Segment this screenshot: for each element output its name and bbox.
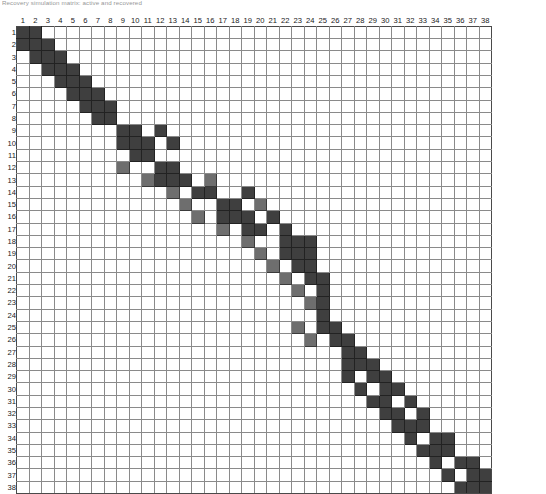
matrix-cell[interactable] [454, 235, 467, 247]
matrix-cell[interactable] [329, 285, 342, 297]
matrix-cell[interactable] [417, 137, 430, 149]
matrix-cell[interactable] [379, 334, 392, 346]
matrix-cell[interactable] [179, 481, 192, 493]
matrix-cell[interactable] [129, 248, 142, 260]
matrix-cell[interactable] [367, 162, 380, 174]
matrix-cell[interactable] [192, 334, 205, 346]
matrix-cell[interactable] [404, 395, 417, 407]
matrix-cell[interactable] [42, 248, 55, 260]
matrix-cell[interactable] [354, 309, 367, 321]
matrix-cell[interactable] [429, 186, 442, 198]
matrix-cell[interactable] [229, 297, 242, 309]
matrix-cell[interactable] [329, 457, 342, 469]
matrix-cell[interactable] [42, 26, 55, 38]
matrix-cell[interactable] [317, 186, 330, 198]
matrix-cell[interactable] [442, 297, 455, 309]
matrix-cell[interactable] [254, 346, 267, 358]
matrix-cell[interactable] [204, 63, 217, 75]
matrix-cell[interactable] [204, 383, 217, 395]
matrix-cell[interactable] [154, 211, 167, 223]
matrix-cell[interactable] [117, 100, 130, 112]
matrix-cell[interactable] [17, 334, 30, 346]
matrix-cell[interactable] [379, 395, 392, 407]
matrix-cell[interactable] [292, 285, 305, 297]
matrix-cell[interactable] [129, 198, 142, 210]
matrix-cell[interactable] [142, 63, 155, 75]
matrix-cell[interactable] [229, 211, 242, 223]
matrix-cell[interactable] [117, 223, 130, 235]
matrix-cell[interactable] [267, 346, 280, 358]
matrix-cell[interactable] [242, 63, 255, 75]
matrix-cell[interactable] [167, 186, 180, 198]
matrix-cell[interactable] [167, 285, 180, 297]
matrix-cell[interactable] [17, 211, 30, 223]
matrix-cell[interactable] [29, 272, 42, 284]
matrix-cell[interactable] [329, 346, 342, 358]
matrix-cell[interactable] [242, 26, 255, 38]
matrix-cell[interactable] [354, 272, 367, 284]
matrix-cell[interactable] [329, 88, 342, 100]
matrix-cell[interactable] [479, 137, 492, 149]
matrix-cell[interactable] [17, 457, 30, 469]
matrix-cell[interactable] [42, 149, 55, 161]
matrix-cell[interactable] [229, 162, 242, 174]
matrix-cell[interactable] [79, 408, 92, 420]
matrix-cell[interactable] [292, 481, 305, 493]
matrix-cell[interactable] [467, 457, 480, 469]
matrix-cell[interactable] [217, 125, 230, 137]
matrix-cell[interactable] [242, 383, 255, 395]
matrix-cell[interactable] [429, 198, 442, 210]
matrix-cell[interactable] [242, 358, 255, 370]
matrix-cell[interactable] [242, 235, 255, 247]
matrix-cell[interactable] [229, 272, 242, 284]
matrix-cell[interactable] [404, 481, 417, 493]
matrix-cell[interactable] [204, 75, 217, 87]
matrix-cell[interactable] [17, 198, 30, 210]
matrix-cell[interactable] [117, 248, 130, 260]
matrix-cell[interactable] [54, 26, 67, 38]
matrix-cell[interactable] [67, 112, 80, 124]
matrix-cell[interactable] [142, 248, 155, 260]
matrix-cell[interactable] [479, 223, 492, 235]
matrix-cell[interactable] [104, 88, 117, 100]
matrix-cell[interactable] [379, 39, 392, 51]
matrix-cell[interactable] [104, 125, 117, 137]
matrix-cell[interactable] [192, 297, 205, 309]
matrix-cell[interactable] [392, 432, 405, 444]
matrix-cell[interactable] [442, 63, 455, 75]
matrix-cell[interactable] [192, 235, 205, 247]
matrix-cell[interactable] [292, 444, 305, 456]
matrix-cell[interactable] [367, 223, 380, 235]
matrix-cell[interactable] [192, 112, 205, 124]
matrix-cell[interactable] [229, 481, 242, 493]
matrix-cell[interactable] [379, 457, 392, 469]
matrix-cell[interactable] [254, 420, 267, 432]
matrix-cell[interactable] [467, 444, 480, 456]
matrix-cell[interactable] [229, 334, 242, 346]
matrix-cell[interactable] [104, 75, 117, 87]
matrix-cell[interactable] [317, 63, 330, 75]
matrix-cell[interactable] [379, 235, 392, 247]
matrix-cell[interactable] [129, 211, 142, 223]
matrix-cell[interactable] [417, 285, 430, 297]
matrix-cell[interactable] [67, 211, 80, 223]
matrix-cell[interactable] [42, 309, 55, 321]
matrix-cell[interactable] [242, 51, 255, 63]
matrix-cell[interactable] [204, 248, 217, 260]
matrix-cell[interactable] [217, 26, 230, 38]
matrix-cell[interactable] [392, 346, 405, 358]
matrix-cell[interactable] [79, 137, 92, 149]
matrix-cell[interactable] [79, 125, 92, 137]
matrix-cell[interactable] [392, 321, 405, 333]
matrix-cell[interactable] [54, 211, 67, 223]
matrix-cell[interactable] [192, 211, 205, 223]
matrix-cell[interactable] [42, 285, 55, 297]
matrix-cell[interactable] [242, 297, 255, 309]
matrix-cell[interactable] [467, 297, 480, 309]
matrix-cell[interactable] [167, 63, 180, 75]
matrix-cell[interactable] [429, 137, 442, 149]
matrix-cell[interactable] [342, 162, 355, 174]
matrix-cell[interactable] [104, 137, 117, 149]
matrix-cell[interactable] [154, 125, 167, 137]
matrix-cell[interactable] [217, 51, 230, 63]
